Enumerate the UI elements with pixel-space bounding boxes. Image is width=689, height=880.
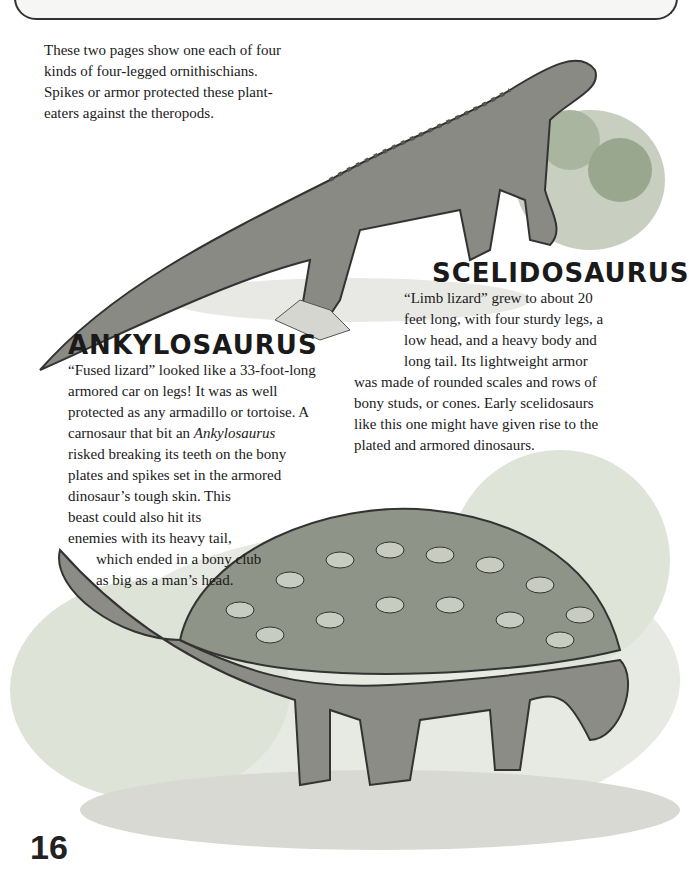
text-line: plated and armored dinosaurs. [354,435,603,456]
text-line: dinosaur’s tough skin. This [68,486,316,507]
text-line: long tail. Its lightweight armor [354,351,603,372]
text-line: “Fused lizard” looked like a 33-foot-lon… [68,360,316,381]
text-line: enemies with its heavy tail, [68,528,316,549]
text-line: carnosaur that bit an Ankylosaurus [68,423,316,444]
intro-line: These two pages show one each of four [44,40,281,61]
text-line: armored car on legs! It was as well [68,381,316,402]
intro-line: Spikes or armor protected these plant- [44,82,281,103]
text-line: bony studs, or cones. Early scelidosaurs [354,393,603,414]
ankylosaurus-heading: ANKYLOSAURUS [68,329,318,361]
text-line: protected as any armadillo or tortoise. … [68,402,316,423]
text-line: feet long, with four sturdy legs, a [354,309,603,330]
scelidosaurus-heading: SCELIDOSAURUS [432,257,689,289]
intro-paragraph: These two pages show one each of four ki… [44,40,281,124]
text-line: was made of rounded scales and rows of [354,372,603,393]
ankylosaurus-paragraph: “Fused lizard” looked like a 33-foot-lon… [68,360,316,591]
text-fragment: carnosaur that bit an [68,425,190,441]
italic-species-name: Ankylosaurus [194,425,276,441]
page-number: 16 [30,828,68,867]
top-banner [14,0,678,20]
text-line: risked breaking its teeth on the bony [68,444,316,465]
text-line: like this one might have given rise to t… [354,414,603,435]
text-line: “Limb lizard” grew to about 20 [354,288,603,309]
text-line: low head, and a heavy body and [354,330,603,351]
text-line: which ended in a bony club [68,549,316,570]
intro-line: kinds of four-legged ornithischians. [44,61,281,82]
intro-line: eaters against the theropods. [44,103,281,124]
scelidosaurus-paragraph: “Limb lizard” grew to about 20 feet long… [354,288,603,456]
text-line: plates and spikes set in the armored [68,465,316,486]
text-line: as big as a man’s head. [68,570,316,591]
text-line: beast could also hit its [68,507,316,528]
